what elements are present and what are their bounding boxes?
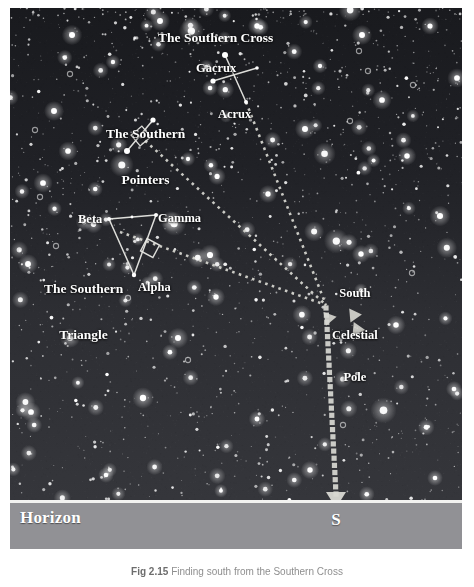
caption-text: Finding south from the Southern Cross [171,566,343,577]
star-triangle-mid [131,216,134,219]
pointer-line-from-pointers [140,136,326,305]
star-beta [107,217,111,221]
star-gacrux [222,52,228,58]
pole-dash-segment [329,413,334,418]
south-direction-marker: S [322,510,350,530]
pole-dash-segment [330,434,335,439]
pole-dash-segment [327,370,332,375]
star-pointer-b [124,148,130,154]
pole-dash-segment [326,355,331,360]
pole-dash-segment [325,341,330,346]
pole-dash-segment [332,470,337,475]
constellation-line-triangle-beta-alpha [109,219,134,275]
pole-dash-segment [326,363,331,368]
pointer-line-from-triangle [120,232,326,305]
arrowhead-right [347,322,365,340]
pole-dash-segment [328,384,333,389]
pole-dash-segment [327,377,332,382]
figure-caption: Fig 2.15 Finding south from the Southern… [0,566,474,577]
pole-dash-segment [326,348,331,353]
pole-dash-segment [325,334,330,339]
constellation-overlay [10,8,462,549]
pole-dash-segment [324,320,329,325]
sky-plate: The Southern Cross The Southern Pointers… [10,8,462,549]
named-star-group [107,52,259,277]
star-alpha [132,273,136,277]
pole-dash-segment [329,406,334,411]
pole-dash-segment [333,477,338,482]
constellation-line-cross-long [225,55,246,102]
star-cross-e [255,66,259,70]
pole-dash-segment [331,448,336,453]
pointer-line-group [120,102,326,305]
caption-figure-number: Fig 2.15 [131,566,168,577]
pole-dash-segment [328,398,333,403]
star-cross-w [210,78,215,83]
arrowhead-mid [344,309,362,326]
star-gamma [154,213,158,217]
star-chart-figure: The Southern Cross The Southern Pointers… [0,0,474,587]
pole-dash-segment [330,420,335,425]
pole-dash-segment [333,484,338,489]
pole-dash-segment [331,441,336,446]
pole-dash-segment [331,456,336,461]
horizon-label: Horizon [20,508,81,528]
pole-dash-segment [330,427,335,432]
star-acrux [244,100,248,104]
constellation-line-triangle-gamma-alpha [134,215,156,275]
pointer-line-from-southern-cross [246,102,326,305]
star-pointer-a [150,117,155,122]
pole-dash-segment [328,391,333,396]
pole-dash-segment [332,463,337,468]
pole-dash-segment [324,313,329,318]
constellation-line-group [109,55,257,275]
pole-dash-segment [325,327,330,332]
pole-dash-segment [323,305,328,310]
pole-to-horizon-dash-group [323,305,346,508]
